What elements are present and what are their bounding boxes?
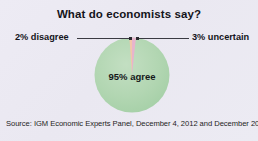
- pie-label-uncertain: 3% uncertain: [192, 32, 249, 42]
- leader-line-uncertain: [139, 38, 189, 39]
- leader-dot-uncertain: [136, 37, 139, 40]
- source-note: Source: IGM Economic Experts Panel, Dece…: [6, 119, 258, 128]
- chart-title: What do economists say?: [0, 8, 258, 20]
- pie-label-disagree: 2% disagree: [15, 32, 69, 42]
- leader-dot-disagree: [129, 37, 132, 40]
- pie-label-agree: 95% agree: [94, 71, 170, 82]
- pie-chart-figure: What do economists say? 95% agree 2% dis…: [0, 0, 258, 141]
- leader-line-disagree: [77, 38, 130, 39]
